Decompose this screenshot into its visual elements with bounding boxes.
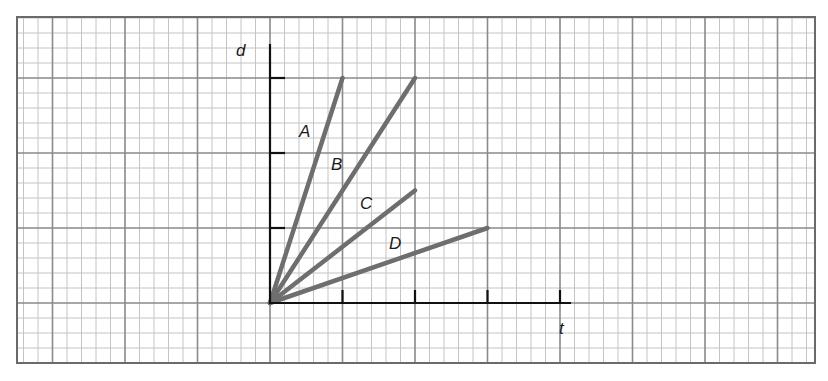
line-c-label: C	[360, 194, 373, 213]
y-axis-label: d	[236, 41, 246, 60]
line-d-label: D	[389, 234, 401, 253]
distance-time-graph: d t A B C D	[0, 0, 828, 381]
line-b-label: B	[331, 155, 342, 174]
line-a-label: A	[298, 122, 310, 141]
